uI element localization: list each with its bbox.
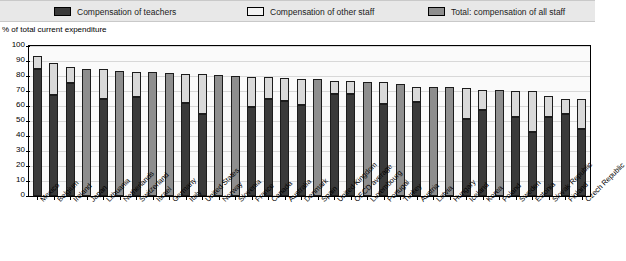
bar-group[interactable]	[478, 46, 487, 196]
bar-group[interactable]	[528, 46, 537, 196]
bar-group[interactable]	[412, 46, 421, 196]
plot-area	[28, 45, 591, 197]
y-tick-label: 100	[1, 41, 25, 49]
y-axis-caption: % of total current expenditure	[2, 25, 107, 34]
bar-segment-other-staff	[412, 87, 421, 103]
y-tick-label: 50	[1, 116, 25, 124]
bar-group[interactable]	[544, 46, 553, 196]
bar-segment-other-staff	[49, 63, 58, 95]
y-tick-label: 10	[1, 176, 25, 184]
bar-group[interactable]	[313, 46, 322, 196]
legend-label-other-staff: Compensation of other staff	[270, 7, 374, 17]
bar-segment-other-staff	[264, 77, 273, 99]
bar-group[interactable]	[445, 46, 454, 196]
bar-segment-teachers	[198, 114, 207, 197]
x-axis-labels: MexicoBelgiumIrelandJapanLithuaniaNether…	[28, 198, 589, 261]
y-tick-label: 80	[1, 71, 25, 79]
legend-item-other-staff: Compensation of other staff	[247, 5, 374, 18]
y-tick-label: 0	[1, 191, 25, 199]
bar-segment-teachers	[330, 94, 339, 196]
bar-segment-other-staff	[66, 67, 75, 83]
bar-segment-other-staff	[577, 99, 586, 129]
bar-segment-total	[495, 90, 504, 196]
bar-group[interactable]	[33, 46, 42, 196]
bar-group[interactable]	[511, 46, 520, 196]
bar-group[interactable]	[49, 46, 58, 196]
bar-segment-other-staff	[478, 90, 487, 110]
bar-group[interactable]	[115, 46, 124, 196]
bar-group[interactable]	[462, 46, 471, 196]
bar-segment-total	[82, 69, 91, 197]
legend-item-total: Total: compensation of all staff	[428, 5, 565, 18]
bar-segment-other-staff	[99, 69, 108, 98]
bar-segment-teachers	[99, 99, 108, 197]
legend-swatch-gray-icon	[428, 7, 445, 16]
legend-label-teachers: Compensation of teachers	[77, 7, 176, 17]
bar-segment-other-staff	[346, 81, 355, 94]
bar-group[interactable]	[214, 46, 223, 196]
y-tick-label: 40	[1, 131, 25, 139]
bar-segment-teachers	[33, 69, 42, 196]
bar-segment-other-staff	[297, 79, 306, 105]
legend-item-teachers: Compensation of teachers	[54, 5, 176, 18]
bar-segment-other-staff	[561, 99, 570, 114]
y-tick-label: 20	[1, 161, 25, 169]
bar-group[interactable]	[561, 46, 570, 196]
y-tick-label: 30	[1, 146, 25, 154]
bar-group[interactable]	[247, 46, 256, 196]
bar-group[interactable]	[297, 46, 306, 196]
bar-group[interactable]	[495, 46, 504, 196]
bar-segment-other-staff	[379, 82, 388, 104]
legend-swatch-dark-icon	[54, 7, 71, 16]
bar-segment-other-staff	[247, 77, 256, 107]
legend-label-total: Total: compensation of all staff	[451, 7, 565, 17]
bar-segment-other-staff	[544, 96, 553, 118]
bar-segment-other-staff	[330, 81, 339, 95]
chart-legend: Compensation of teachers Compensation of…	[0, 0, 595, 22]
bar-group[interactable]	[66, 46, 75, 196]
bar-segment-other-staff	[181, 74, 190, 103]
y-axis-labels: 0102030405060708090100	[0, 45, 25, 195]
bar-segment-total	[429, 87, 438, 196]
bar-segment-other-staff	[198, 74, 207, 114]
bar-group[interactable]	[346, 46, 355, 196]
y-tick-label: 70	[1, 86, 25, 94]
bar-group[interactable]	[198, 46, 207, 196]
bar-segment-other-staff	[462, 88, 471, 119]
bar-segment-other-staff	[33, 56, 42, 70]
y-tick-label: 60	[1, 101, 25, 109]
bar-group[interactable]	[330, 46, 339, 196]
bar-group[interactable]	[82, 46, 91, 196]
bar-series	[29, 46, 590, 196]
bar-group[interactable]	[264, 46, 273, 196]
bar-group[interactable]	[99, 46, 108, 196]
bar-segment-other-staff	[511, 91, 520, 117]
bar-group[interactable]	[132, 46, 141, 196]
bar-group[interactable]	[429, 46, 438, 196]
bar-segment-other-staff	[280, 78, 289, 101]
bar-group[interactable]	[280, 46, 289, 196]
bar-segment-total	[445, 87, 454, 196]
bar-group[interactable]	[181, 46, 190, 196]
y-tick-label: 90	[1, 56, 25, 64]
bar-segment-other-staff	[132, 72, 141, 98]
y-tick-mark	[26, 196, 30, 197]
legend-swatch-light-icon	[247, 7, 264, 16]
plot-wrapper: 0102030405060708090100 MexicoBelgiumIrel…	[0, 38, 595, 261]
bar-segment-other-staff	[528, 91, 537, 132]
